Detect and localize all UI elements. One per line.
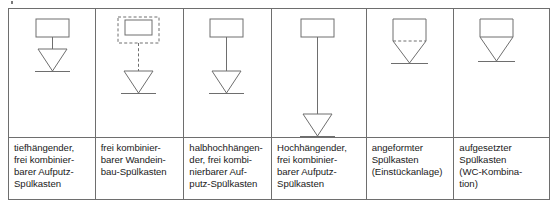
cistern-concealed-icon	[96, 9, 184, 137]
cistern-integral-icon	[367, 9, 454, 137]
symbol-table-figure: tiefhängender, frei kombinier- barer Auf…	[0, 0, 558, 204]
caption-cell-aufgesetzter: aufgesetzter Spülkasten (WC-Kombina- tio…	[454, 138, 549, 199]
cistern-mid-level-icon	[184, 9, 271, 137]
symbol-cell-aufgesetzter	[454, 9, 549, 138]
symbol-cell-wandeinbau	[96, 9, 184, 138]
table-column-angeformter: angeformter Spülkasten (Einstückanlage)	[367, 9, 455, 199]
symbol-cell-angeformter	[367, 9, 454, 138]
cistern-low-level-icon	[9, 9, 95, 137]
caption-cell-angeformter: angeformter Spülkasten (Einstückanlage)	[367, 138, 454, 199]
table-column-tiefhaengender: tiefhängender, frei kombinier- barer Auf…	[9, 9, 96, 199]
caption-text: tiefhängender, frei kombinier- barer Auf…	[14, 142, 90, 190]
table-column-halbhochhaengender: halbhochhängen- der, frei kombi- nierbar…	[184, 9, 272, 199]
symbol-table: tiefhängender, frei kombinier- barer Auf…	[8, 8, 550, 200]
scan-artifact-speck	[11, 1, 13, 4]
caption-text: angeformter Spülkasten (Einstückanlage)	[372, 142, 449, 178]
symbol-cell-halbhochhaengender	[184, 9, 271, 138]
caption-cell-wandeinbau: frei kombinier- barer Wandein- bau-Spülk…	[96, 138, 184, 199]
caption-text: frei kombinier- barer Wandein- bau-Spülk…	[101, 142, 179, 178]
caption-cell-halbhochhaengender: halbhochhängen- der, frei kombi- nierbar…	[184, 138, 271, 199]
caption-text: aufgesetzter Spülkasten (WC-Kombina- tio…	[459, 142, 544, 190]
table-column-wandeinbau: frei kombinier- barer Wandein- bau-Spülk…	[96, 9, 185, 199]
cistern-close-coupled-icon	[454, 9, 549, 137]
caption-cell-tiefhaengender: tiefhängender, frei kombinier- barer Auf…	[9, 138, 95, 199]
caption-text: Hochhängender, frei kombinier- barer Auf…	[277, 142, 361, 190]
symbol-cell-hochhaengender	[272, 9, 366, 138]
table-column-hochhaengender: Hochhängender, frei kombinier- barer Auf…	[272, 9, 367, 199]
caption-cell-hochhaengender: Hochhängender, frei kombinier- barer Auf…	[272, 138, 366, 199]
cistern-high-level-icon	[272, 9, 366, 137]
table-column-aufgesetzter: aufgesetzter Spülkasten (WC-Kombina- tio…	[454, 9, 549, 199]
symbol-cell-tiefhaengender	[9, 9, 95, 138]
caption-text: halbhochhängen- der, frei kombi- nierbar…	[189, 142, 266, 190]
